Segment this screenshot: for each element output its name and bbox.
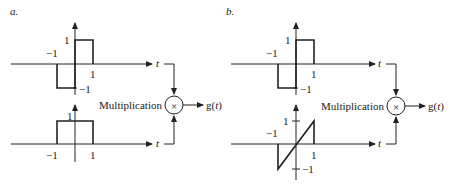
tick-label-neg1: −1 <box>46 149 58 161</box>
multiplication-diagram: a. 1 −1 1 −1 t 1 −1 1 t Multiplica <box>0 0 450 189</box>
multiplier-a: Multiplication × g(t) <box>99 96 222 114</box>
panel-a-bottom-plot: 1 −1 1 t <box>11 105 174 162</box>
output-label: g(t) <box>428 100 444 113</box>
tick-label-1-x: 1 <box>90 68 96 80</box>
tick-label-1-x: 1 <box>90 149 96 161</box>
t-label: t <box>378 57 382 69</box>
t-label: t <box>156 57 160 69</box>
panel-a: a. 1 −1 1 −1 t 1 −1 1 t Multiplica <box>10 5 222 162</box>
t-label: t <box>156 137 160 149</box>
tick-label-1: 1 <box>285 34 291 46</box>
multiplication-label: Multiplication <box>99 99 162 111</box>
tick-label-1: 1 <box>67 110 73 122</box>
multiplication-label: Multiplication <box>321 100 384 112</box>
panel-b-top-plot: 1 −1 1 −1 t <box>231 23 396 95</box>
tick-label-neg1-y: −1 <box>302 163 314 175</box>
times-icon: × <box>393 101 399 113</box>
tick-label-neg1: −1 <box>46 47 58 59</box>
tick-label-neg1: −1 <box>266 47 278 59</box>
panel-label-b: b. <box>226 5 234 17</box>
tick-label-neg1: −1 <box>266 127 278 139</box>
tick-label-neg1-y: −1 <box>300 83 312 95</box>
connector-bottom <box>164 116 174 144</box>
connector-top <box>386 64 396 95</box>
tick-label-neg1-y: −1 <box>79 83 91 95</box>
panel-b: b. 1 −1 1 −1 t 1 −1 1 −1 t <box>226 5 444 180</box>
tick-label-1-x: 1 <box>311 68 317 80</box>
multiplier-b: Multiplication × g(t) <box>321 97 444 115</box>
output-label: g(t) <box>206 99 222 112</box>
t-label: t <box>378 137 382 149</box>
panel-a-top-plot: 1 −1 1 −1 t <box>11 23 174 95</box>
connector-bottom <box>386 117 396 144</box>
tick-label-1: 1 <box>283 115 289 127</box>
panel-b-bottom-plot: 1 −1 1 −1 t <box>231 105 396 180</box>
connector-top <box>164 64 174 94</box>
times-icon: × <box>171 100 177 112</box>
panel-label-a: a. <box>10 5 18 17</box>
tick-label-1: 1 <box>64 34 70 46</box>
tick-label-1-x: 1 <box>311 149 317 161</box>
